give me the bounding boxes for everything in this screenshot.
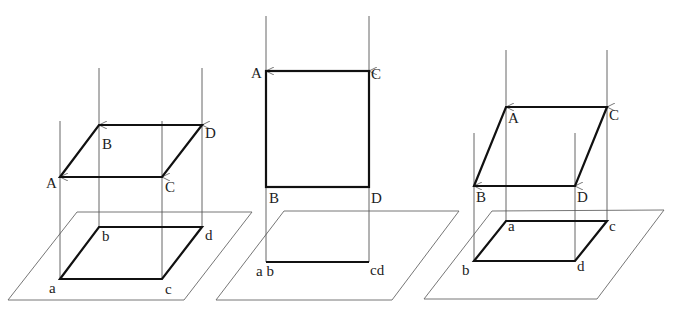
label-B: B [269,190,279,206]
projection-abcd-right [474,221,607,261]
figure-left: A B C D a b c d [8,68,252,300]
label-B: B [102,136,112,152]
label-A: A [508,110,519,126]
label-B: B [476,189,486,205]
label-A: A [251,65,262,81]
label-ab: a b [256,263,274,279]
label-cd: cd [370,262,385,278]
label-D: D [371,190,382,206]
label-D: D [205,125,216,141]
figure-middle: A C B D a b cd [216,16,459,300]
label-a: a [49,280,56,296]
label-C: C [371,66,381,82]
object-ABCD-left [60,125,202,177]
label-A: A [46,175,57,191]
label-C: C [609,107,619,123]
label-D: D [577,189,588,205]
label-d: d [205,227,213,243]
label-b: b [102,228,110,244]
label-b: b [462,262,470,278]
projection-diagram: A B C D a b c d A C B D a b cd A [0,0,681,327]
object-ABCD-middle [266,71,369,187]
label-d: d [577,258,585,274]
label-c: c [165,281,172,297]
label-c: c [609,218,616,234]
label-a: a [508,218,515,234]
label-C: C [165,179,175,195]
figure-right: A C B D a c b d [424,50,664,299]
projection-plane-right [424,210,664,299]
projection-abcd-left [60,227,202,279]
projection-plane-left [8,212,252,300]
projection-plane-middle [216,211,459,300]
object-ABCD-right [474,107,607,186]
